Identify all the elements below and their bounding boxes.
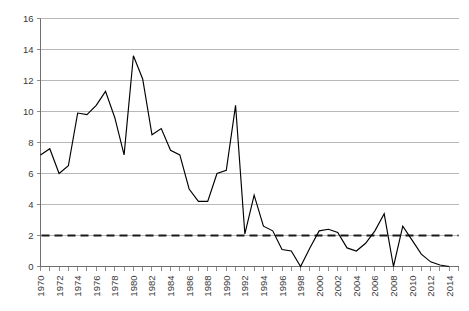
- chart-container: 0246810121416197019721974197619781980198…: [0, 0, 469, 311]
- x-tick-label: 2002: [332, 276, 343, 297]
- y-tick-label: 16: [23, 13, 34, 24]
- x-tick-label: 1980: [128, 276, 139, 297]
- x-tick-label: 1970: [35, 276, 46, 297]
- y-tick-label: 8: [28, 137, 33, 148]
- x-tick-label: 1974: [72, 276, 83, 297]
- y-axis-ticks: 0246810121416: [23, 13, 41, 272]
- x-axis-ticks: 1970197219741976197819801982198419861988…: [35, 267, 459, 297]
- y-tick-label: 6: [28, 168, 33, 179]
- x-tick-label: 1998: [295, 276, 306, 297]
- x-tick-label: 2012: [425, 276, 436, 297]
- x-tick-label: 2004: [351, 276, 362, 297]
- y-tick-label: 4: [28, 199, 33, 210]
- x-tick-label: 1986: [184, 276, 195, 297]
- x-tick-label: 1984: [165, 276, 176, 297]
- x-tick-label: 1982: [146, 276, 157, 297]
- x-tick-label: 2010: [407, 276, 418, 297]
- x-tick-label: 1988: [202, 276, 213, 297]
- x-tick-label: 1990: [221, 276, 232, 297]
- gridlines: [41, 19, 459, 236]
- x-tick-label: 1994: [258, 276, 269, 297]
- y-tick-label: 14: [23, 44, 34, 55]
- y-tick-label: 0: [28, 261, 33, 272]
- y-tick-label: 12: [23, 75, 34, 86]
- x-tick-label: 2000: [314, 276, 325, 297]
- x-tick-label: 1978: [109, 276, 120, 297]
- line-chart: 0246810121416197019721974197619781980198…: [0, 0, 469, 311]
- data-series-line: [41, 56, 450, 267]
- x-tick-label: 1972: [54, 276, 65, 297]
- x-tick-label: 1992: [239, 276, 250, 297]
- x-tick-label: 2014: [444, 276, 455, 297]
- x-tick-label: 2006: [369, 276, 380, 297]
- y-tick-label: 10: [23, 106, 34, 117]
- x-tick-label: 1976: [91, 276, 102, 297]
- y-tick-label: 2: [28, 230, 33, 241]
- x-tick-label: 2008: [388, 276, 399, 297]
- x-tick-label: 1996: [277, 276, 288, 297]
